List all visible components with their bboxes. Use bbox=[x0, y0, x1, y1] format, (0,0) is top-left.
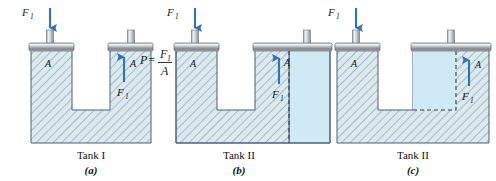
panel-c-right-piston-cap bbox=[411, 43, 491, 51]
panel-a-right-piston-cap bbox=[108, 43, 153, 51]
panel-c-tank-caption: Tank II bbox=[397, 149, 429, 161]
panel-c-force-label-bottom: F bbox=[461, 90, 469, 102]
panel-a: F 1 A A F 1 P = F 1 A Tank I (a) bbox=[21, 6, 172, 177]
physics-figure: F 1 A A F 1 P = F 1 A Tank I (a) bbox=[0, 0, 496, 181]
equation-numerator-subscript: 1 bbox=[167, 54, 171, 63]
panel-a-left-piston-rod bbox=[47, 30, 54, 44]
panel-c-force-subscript-bottom: 1 bbox=[470, 96, 474, 105]
panel-a-force-label-bottom: F bbox=[116, 86, 124, 98]
panel-a-force-subscript-bottom: 1 bbox=[125, 92, 129, 101]
equation-equals: = bbox=[148, 53, 156, 67]
panel-b-area-label-right: A bbox=[283, 57, 291, 68]
panel-c-area-label-left: A bbox=[350, 58, 358, 69]
panel-c-right-piston-rod bbox=[448, 30, 455, 44]
panel-a-tank-caption: Tank I bbox=[77, 149, 106, 161]
panel-b-force-label-top: F bbox=[166, 6, 174, 18]
panel-a-right-piston-rod bbox=[128, 30, 135, 44]
panel-a-label-caption: (a) bbox=[85, 164, 98, 177]
panel-b-right-piston-cap bbox=[253, 43, 332, 51]
panel-a-area-label-left: A bbox=[44, 58, 52, 69]
panel-c-left-piston-cap bbox=[335, 43, 380, 51]
panel-c-force-label-top: F bbox=[327, 6, 335, 18]
panel-b-force-label-bottom: F bbox=[271, 88, 279, 100]
panel-c: F 1 A A F 1 Tank II (c) bbox=[327, 6, 491, 177]
panel-c-area-label-right: A bbox=[474, 59, 482, 70]
equation-denominator: A bbox=[160, 64, 169, 78]
panel-b-tank-caption: Tank II bbox=[223, 149, 255, 161]
panel-c-force-subscript-top: 1 bbox=[336, 12, 340, 21]
panel-b-left-piston-rod bbox=[192, 30, 199, 44]
panel-b-area-label-left: A bbox=[189, 58, 197, 69]
panel-b: F 1 A A F 1 Tank II (b) bbox=[166, 6, 332, 177]
panel-b-fluid-plain bbox=[289, 50, 330, 143]
figure-canvas: F 1 A A F 1 P = F 1 A Tank I (a) bbox=[0, 0, 496, 181]
panel-a-left-piston-cap bbox=[29, 43, 74, 51]
panel-b-left-piston-cap bbox=[174, 43, 219, 51]
panel-b-label-caption: (b) bbox=[233, 164, 246, 177]
panel-b-force-subscript-top: 1 bbox=[175, 12, 179, 21]
panel-a-area-label-right: A bbox=[129, 58, 137, 69]
panel-c-label-caption: (c) bbox=[407, 164, 419, 177]
panel-b-force-subscript-bottom: 1 bbox=[280, 94, 284, 103]
panel-a-force-subscript-top: 1 bbox=[30, 12, 34, 21]
panel-a-force-label-top: F bbox=[21, 6, 29, 18]
panel-c-fluid-plain bbox=[413, 50, 456, 110]
panel-c-left-piston-rod bbox=[353, 30, 360, 44]
panel-b-right-piston-rod bbox=[304, 30, 311, 44]
